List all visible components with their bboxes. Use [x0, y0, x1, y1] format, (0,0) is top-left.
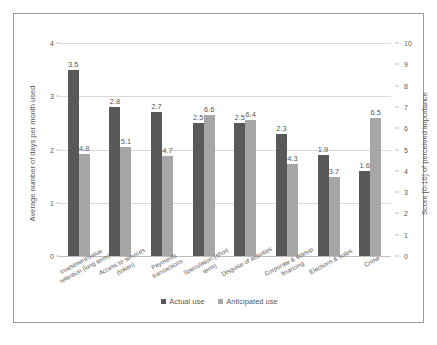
- bar-value-label-actual: 1.6: [359, 161, 369, 170]
- bar-actual-use[interactable]: [109, 107, 120, 256]
- bar-group: 2.56.4: [234, 43, 256, 256]
- bar-value-label-anticipated: 3.7: [329, 167, 339, 176]
- bar-value-label-actual: 1.9: [318, 145, 328, 154]
- bar-value-label-actual: 2.8: [110, 97, 120, 106]
- bar-anticipated-use[interactable]: [370, 118, 381, 256]
- right-axis-tick-mark: [395, 64, 399, 65]
- left-axis-tick-label: 1: [50, 199, 54, 206]
- bar-actual-use[interactable]: [318, 155, 329, 256]
- bar-value-label-anticipated: 6.5: [370, 108, 380, 117]
- right-axis-tick-label: 2: [404, 210, 408, 217]
- bar-group: 2.34.3: [276, 43, 298, 256]
- bar-value-label-anticipated: 5.1: [121, 137, 131, 146]
- bar-value-label-actual: 2.3: [276, 124, 286, 133]
- bar-value-label-anticipated: 6.4: [246, 110, 256, 119]
- bar-actual-use[interactable]: [193, 123, 204, 256]
- bar-group: 2.74.7: [151, 43, 173, 256]
- legend-swatch-icon: [218, 299, 223, 304]
- right-axis-tick-mark: [395, 85, 399, 86]
- bar-group: 1.66.5: [359, 43, 381, 256]
- bar-actual-use[interactable]: [68, 70, 79, 256]
- bar-value-label-anticipated: 4.3: [287, 154, 297, 163]
- right-axis-ticks: 012345678910: [395, 43, 417, 256]
- gridline: [58, 150, 391, 151]
- bar-group: 1.93.7: [318, 43, 340, 256]
- left-axis-tick-label: 0: [50, 253, 54, 260]
- bar-actual-use[interactable]: [276, 134, 287, 256]
- bar-anticipated-use[interactable]: [245, 120, 256, 256]
- bar-anticipated-use[interactable]: [162, 156, 173, 256]
- right-axis-tick-label: 10: [404, 40, 412, 47]
- gridline: [58, 43, 391, 44]
- left-axis-title: Average number of days per month used: [28, 84, 37, 224]
- gridline: [58, 203, 391, 204]
- bar-actual-use[interactable]: [234, 123, 245, 256]
- right-axis-tick-mark: [395, 43, 399, 44]
- bar-value-label-actual: 2.7: [151, 102, 161, 111]
- right-axis-tick-label: 6: [404, 125, 408, 132]
- right-axis-tick-mark: [395, 149, 399, 150]
- bar-anticipated-use[interactable]: [79, 154, 90, 256]
- right-axis-tick-label: 0: [404, 253, 408, 260]
- left-axis-tick-label: 2: [50, 146, 54, 153]
- right-axis-tick-label: 8: [404, 82, 408, 89]
- legend-item[interactable]: Anticipated use: [218, 297, 277, 306]
- chart-legend: Actual useAnticipated use: [14, 297, 425, 306]
- right-axis-tick-label: 3: [404, 189, 408, 196]
- bar-actual-use[interactable]: [359, 171, 370, 256]
- left-axis-ticks: 01234: [40, 43, 58, 256]
- plot-area: 3.54.82.85.12.74.72.56.62.56.42.34.31.93…: [58, 43, 391, 256]
- bar-actual-use[interactable]: [151, 112, 162, 256]
- right-axis-tick-mark: [395, 192, 399, 193]
- bar-value-label-actual: 3.5: [68, 60, 78, 69]
- left-axis-tick-label: 3: [50, 93, 54, 100]
- bar-value-label-anticipated: 4.8: [79, 144, 89, 153]
- left-axis-tick-label: 4: [50, 40, 54, 47]
- bar-anticipated-use[interactable]: [204, 115, 215, 256]
- bar-group: 2.56.6: [193, 43, 215, 256]
- right-axis-tick-label: 1: [404, 231, 408, 238]
- bar-value-label-actual: 2.5: [193, 113, 203, 122]
- right-axis-tick-label: 5: [404, 146, 408, 153]
- bar-group: 2.85.1: [109, 43, 131, 256]
- bar-anticipated-use[interactable]: [329, 177, 340, 256]
- right-axis-tick-mark: [395, 128, 399, 129]
- bar-value-label-anticipated: 6.6: [204, 105, 214, 114]
- right-axis-tick-label: 7: [404, 103, 408, 110]
- right-axis-tick-mark: [395, 256, 399, 257]
- bar-anticipated-use[interactable]: [287, 164, 298, 256]
- right-axis-tick-mark: [395, 234, 399, 235]
- right-axis-title: Score [0-10] of perceived importance: [420, 79, 429, 229]
- legend-label: Anticipated use: [226, 297, 277, 306]
- right-axis-tick-mark: [395, 213, 399, 214]
- legend-label: Actual use: [169, 297, 204, 306]
- gridline: [58, 96, 391, 97]
- bar-value-label-anticipated: 4.7: [162, 146, 172, 155]
- right-axis-tick-mark: [395, 106, 399, 107]
- right-axis-tick-label: 9: [404, 61, 408, 68]
- bar-value-label-actual: 2.5: [235, 113, 245, 122]
- bar-anticipated-use[interactable]: [120, 147, 131, 256]
- bar-group: 3.54.8: [68, 43, 90, 256]
- legend-item[interactable]: Actual use: [161, 297, 204, 306]
- right-axis-tick-mark: [395, 170, 399, 171]
- right-axis-tick-label: 4: [404, 167, 408, 174]
- chart-figure: Average number of days per month used 01…: [13, 13, 424, 323]
- legend-swatch-icon: [161, 299, 166, 304]
